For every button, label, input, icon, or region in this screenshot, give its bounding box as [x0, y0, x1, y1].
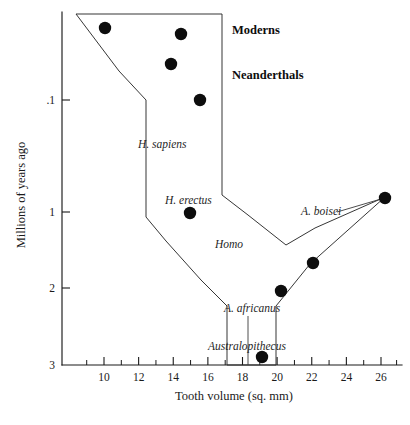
data-point-p6[interactable] [379, 192, 391, 204]
label-moderns: Moderns [232, 23, 280, 37]
y-tick-label: 3 [49, 359, 55, 371]
data-point-p5[interactable] [184, 207, 196, 219]
x-tick-label: 22 [306, 371, 318, 383]
label-a-boisei: A. boisei [300, 205, 341, 217]
x-tick-label: 12 [133, 371, 145, 383]
x-tick-label: 20 [271, 371, 283, 383]
x-axis-title: Tooth volume (sq. mm) [175, 389, 293, 403]
x-tick-label: 16 [202, 371, 214, 383]
x-tick-label: 26 [375, 371, 387, 383]
x-axis-major-ticks [104, 357, 381, 365]
x-tick-label: 24 [341, 371, 353, 383]
label-neanderthals: Neanderthals [232, 68, 304, 82]
y-tick-label: .1 [46, 94, 55, 106]
x-tick-label: 10 [98, 371, 110, 383]
label-h-erectus: H. erectus [164, 194, 212, 206]
label-homo: Homo [214, 238, 243, 250]
y-tick-label: 2 [49, 282, 55, 294]
data-point-p3[interactable] [165, 58, 177, 70]
data-point-p2[interactable] [175, 28, 187, 40]
x-axis-tick-labels: 101214161820222426 [98, 371, 387, 383]
a-boisei-leader-line [337, 199, 381, 212]
data-point-p9[interactable] [256, 351, 268, 363]
x-tick-label: 14 [168, 371, 180, 383]
y-axis-tick-labels: .1123 [46, 94, 55, 371]
data-point-p7[interactable] [307, 257, 319, 269]
label-australopithecus: Australopithecus [207, 340, 286, 353]
label-h-sapiens: H. sapiens [137, 138, 187, 151]
data-point-p4[interactable] [194, 94, 206, 106]
x-tick-label: 18 [237, 371, 249, 383]
y-axis-title: Millions of years ago [14, 142, 28, 249]
taxon-annotation-group: ModernsNeanderthalsH. sapiensH. erectusA… [137, 23, 341, 353]
y-axis-ticks [62, 100, 70, 288]
data-point-p8[interactable] [275, 285, 287, 297]
y-tick-label: 1 [49, 206, 55, 218]
scatter-chart-figure: 101214161820222426 .1123 ModernsNeandert… [0, 0, 410, 425]
data-point-p1[interactable] [99, 22, 111, 34]
x-axis-minor-ticks [87, 360, 397, 365]
chart-canvas: 101214161820222426 .1123 ModernsNeandert… [0, 0, 410, 425]
label-a-africanus: A. africanus [223, 302, 281, 315]
